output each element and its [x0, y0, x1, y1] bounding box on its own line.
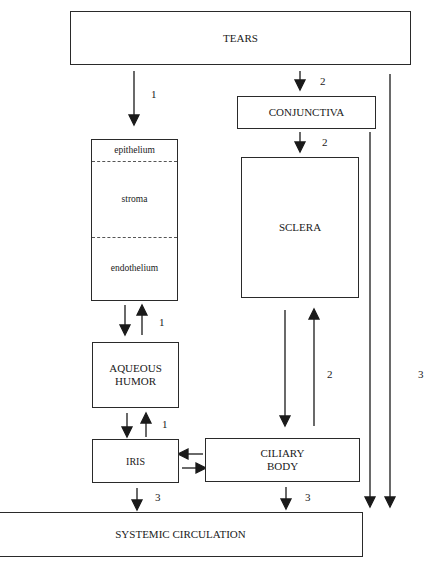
cornea-layer-endothelium: endothelium: [92, 237, 177, 299]
node-conjunctiva: CONJUNCTIVA: [237, 96, 376, 129]
node-tears: TEARS: [70, 11, 411, 65]
node-cornea: epithelium stroma endothelium: [91, 139, 178, 301]
node-aqueous-humor: AQUEOUS HUMOR: [92, 342, 179, 408]
node-ciliary-body: CILIARY BODY: [205, 438, 360, 482]
node-label: CONJUNCTIVA: [269, 106, 345, 119]
arrows-layer: [0, 0, 439, 576]
node-label: SCLERA: [279, 221, 321, 234]
node-iris: IRIS: [92, 439, 179, 483]
node-label: CILIARY: [261, 447, 305, 460]
edge-label: 3: [305, 491, 311, 503]
edge-label: 3: [418, 368, 424, 380]
node-label: IRIS: [126, 455, 145, 468]
node-systemic-circulation: SYSTEMIC CIRCULATION: [0, 512, 363, 557]
edge-label: 2: [322, 136, 328, 148]
edge-label: 2: [320, 75, 326, 87]
node-label: HUMOR: [115, 375, 156, 388]
node-label: SYSTEMIC CIRCULATION: [115, 528, 245, 541]
edge-label: 2: [327, 368, 333, 380]
edge-label: 1: [151, 88, 157, 100]
edge-label: 1: [159, 316, 165, 328]
edge-label: 1: [162, 418, 168, 430]
node-sclera: SCLERA: [241, 157, 359, 298]
node-label: BODY: [267, 460, 298, 473]
cornea-layer-stroma: stroma: [92, 161, 177, 237]
node-label: AQUEOUS: [109, 362, 162, 375]
node-label: TEARS: [223, 32, 258, 45]
cornea-layer-epithelium: epithelium: [92, 140, 177, 161]
edge-label: 3: [155, 491, 161, 503]
